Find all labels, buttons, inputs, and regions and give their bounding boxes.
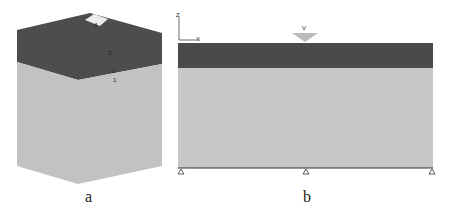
lower-soil-layer (178, 68, 433, 168)
panel-a-3d-model (0, 0, 170, 213)
support-icon (303, 169, 309, 174)
support-icon (429, 169, 435, 174)
layer-label-2: 2 (112, 68, 115, 74)
y-axis-label: Y (196, 36, 200, 42)
upper-soil-layer (178, 43, 433, 68)
layer-label-1: 1 (113, 77, 116, 83)
caption-a: a (85, 188, 92, 206)
layer-label-4: 4 (94, 22, 97, 28)
z-axis-label: Z (176, 12, 180, 18)
lower-soil-layer (17, 62, 162, 184)
caption-b: b (303, 188, 311, 206)
support-icon (178, 169, 184, 174)
load-label: V (302, 25, 306, 31)
load-arrow-icon (292, 33, 318, 42)
layer-label-3: 3 (108, 50, 111, 56)
panel-b-section (170, 0, 452, 213)
